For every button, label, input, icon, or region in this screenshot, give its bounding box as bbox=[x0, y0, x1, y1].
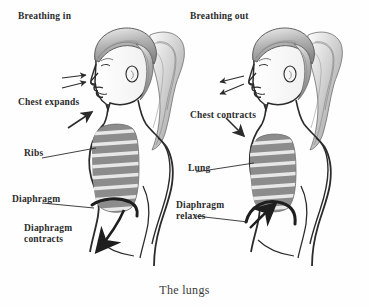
neck-front bbox=[104, 104, 108, 124]
label-diaphragm: Diaphragm bbox=[12, 194, 60, 205]
lungs-illustration: Breathing in Chest expands Ribs Diaphrag… bbox=[0, 0, 369, 307]
label-diaphragm-relaxes: Diaphragm relaxes bbox=[176, 200, 224, 221]
label-chest-expands: Chest expands bbox=[18, 97, 79, 108]
arm-outline bbox=[310, 138, 328, 244]
waist-line bbox=[258, 240, 294, 256]
chest-contracts-arrow bbox=[226, 118, 244, 136]
label-breathing-out: Breathing out bbox=[190, 11, 249, 22]
arm-inner bbox=[140, 186, 149, 258]
ribs-leader bbox=[42, 148, 96, 158]
neck-front bbox=[262, 104, 266, 124]
air-out-arrow-1 bbox=[220, 76, 244, 82]
arm-outline bbox=[152, 138, 170, 244]
air-in-arrow-1 bbox=[62, 75, 86, 78]
air-in-arrow-2 bbox=[62, 82, 86, 88]
right-figure-group bbox=[196, 28, 342, 266]
chest-expands-arrow bbox=[68, 112, 92, 128]
arm-inner bbox=[298, 186, 307, 258]
label-lung: Lung bbox=[188, 163, 210, 174]
label-diaphragm-contracts: Diaphragm contracts bbox=[24, 223, 72, 244]
diaphragm-down-arrow bbox=[98, 210, 124, 250]
label-chest-contracts: Chest contracts bbox=[190, 110, 256, 121]
anatomy-drawing bbox=[0, 0, 369, 307]
air-out-arrow-2 bbox=[220, 84, 244, 94]
label-ribs: Ribs bbox=[24, 148, 43, 159]
figure-caption: The lungs bbox=[0, 283, 369, 298]
label-breathing-in: Breathing in bbox=[18, 11, 71, 22]
